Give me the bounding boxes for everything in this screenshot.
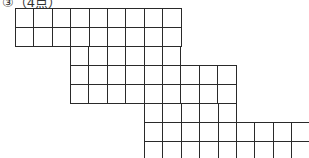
answer-cell[interactable] xyxy=(199,84,218,104)
answer-cell[interactable] xyxy=(144,8,163,28)
answer-cell[interactable] xyxy=(15,8,34,28)
answer-cell[interactable] xyxy=(70,84,89,104)
answer-cell[interactable] xyxy=(254,122,273,142)
answer-cell[interactable] xyxy=(107,27,126,47)
answer-cell[interactable] xyxy=(162,65,181,85)
answer-cell[interactable] xyxy=(70,46,89,66)
answer-cell[interactable] xyxy=(162,103,181,123)
answer-cell[interactable] xyxy=(52,27,71,47)
answer-cell[interactable] xyxy=(162,27,181,47)
answer-cell[interactable] xyxy=(162,141,181,158)
answer-cell[interactable] xyxy=(218,122,237,142)
answer-cell[interactable] xyxy=(162,122,181,142)
answer-cell[interactable] xyxy=(125,84,144,104)
answer-cell[interactable] xyxy=(107,65,126,85)
answer-cell[interactable] xyxy=(33,27,52,47)
answer-cell[interactable] xyxy=(52,8,71,28)
answer-cell[interactable] xyxy=(291,141,309,158)
answer-cell[interactable] xyxy=(199,65,218,85)
answer-cell[interactable] xyxy=(125,65,144,85)
answer-cell[interactable] xyxy=(199,141,218,158)
answer-cell[interactable] xyxy=(236,122,255,142)
answer-cell[interactable] xyxy=(144,65,163,85)
answer-cell[interactable] xyxy=(217,84,236,104)
answer-cell[interactable] xyxy=(125,46,144,66)
answer-cell[interactable] xyxy=(88,65,107,85)
answer-cell[interactable] xyxy=(89,27,108,47)
answer-cell[interactable] xyxy=(125,27,144,47)
answer-cell[interactable] xyxy=(70,8,89,28)
answer-cell[interactable] xyxy=(254,141,273,158)
answer-cell[interactable] xyxy=(291,122,309,142)
answer-cell[interactable] xyxy=(107,84,126,104)
answer-cell[interactable] xyxy=(180,84,199,104)
answer-cell[interactable] xyxy=(70,27,89,47)
answer-cell[interactable] xyxy=(273,141,292,158)
answer-cell[interactable] xyxy=(144,122,163,142)
answer-cell[interactable] xyxy=(88,46,107,66)
answer-cell[interactable] xyxy=(181,103,200,123)
answer-cell[interactable] xyxy=(162,84,181,104)
answer-cell[interactable] xyxy=(107,8,126,28)
answer-cell[interactable] xyxy=(162,8,181,28)
answer-cell[interactable] xyxy=(88,84,107,104)
answer-cell[interactable] xyxy=(144,141,163,158)
answer-cell[interactable] xyxy=(144,84,163,104)
answer-cell[interactable] xyxy=(15,27,34,47)
answer-cell[interactable] xyxy=(70,65,89,85)
answer-cell[interactable] xyxy=(33,8,52,28)
answer-cell[interactable] xyxy=(144,103,163,123)
answer-cell[interactable] xyxy=(144,46,163,66)
answer-cell[interactable] xyxy=(162,46,181,66)
answer-cell[interactable] xyxy=(217,65,236,85)
answer-cell[interactable] xyxy=(89,8,108,28)
answer-cell[interactable] xyxy=(199,122,218,142)
answer-cell[interactable] xyxy=(144,27,163,47)
answer-cell[interactable] xyxy=(181,122,200,142)
answer-cell[interactable] xyxy=(236,141,255,158)
answer-cell[interactable] xyxy=(218,141,237,158)
answer-cell[interactable] xyxy=(199,103,218,123)
answer-cell[interactable] xyxy=(181,141,200,158)
answer-cell[interactable] xyxy=(107,46,126,66)
answer-cell[interactable] xyxy=(180,65,199,85)
answer-cell[interactable] xyxy=(218,103,237,123)
answer-cell[interactable] xyxy=(273,122,292,142)
answer-cell[interactable] xyxy=(125,8,144,28)
